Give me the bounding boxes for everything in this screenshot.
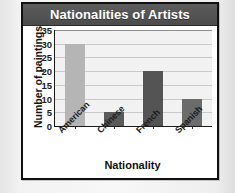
y-axis-tick-label: 20 xyxy=(41,67,52,76)
y-axis-tick-label: 10 xyxy=(41,94,52,103)
y-axis-tick-label: 15 xyxy=(41,80,52,89)
chart-figure: Nationalities of Artists Number of paint… xyxy=(21,2,219,180)
y-axis-tick-label: 5 xyxy=(47,108,52,117)
gridline xyxy=(55,30,212,31)
x-axis-title: Nationality xyxy=(54,159,211,171)
y-axis-tick-label: 0 xyxy=(47,122,52,131)
chart-body: Number of paintings 05101520253035 Ameri… xyxy=(23,26,217,178)
chart-title-banner: Nationalities of Artists xyxy=(23,4,217,26)
y-axis-tick-label: 30 xyxy=(41,39,52,48)
y-axis-tick-label: 25 xyxy=(41,53,52,62)
page-canvas: Nationalities of Artists Number of paint… xyxy=(0,0,235,193)
y-axis-tick-label: 35 xyxy=(41,26,52,35)
chart-title: Nationalities of Artists xyxy=(50,7,190,22)
y-axis-tick-labels: 05101520253035 xyxy=(35,30,52,126)
